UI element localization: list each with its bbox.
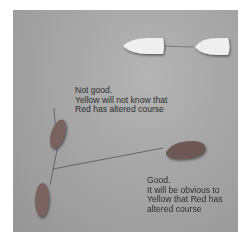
diagram-panel: Not good. Yellow will not know that Red … <box>13 10 238 232</box>
annotation-good: Good. It will be obvious to Yellow that … <box>147 176 223 214</box>
annotation-not-good: Not good. Yellow will not know that Red … <box>75 86 167 115</box>
boat-red-right <box>166 141 205 159</box>
boat-red-lower <box>34 183 49 217</box>
course-line-good <box>53 148 163 169</box>
connection-line-top <box>160 46 194 47</box>
annotation-line: altered course <box>147 205 223 215</box>
boat-white-right <box>195 38 230 55</box>
boat-red-upper <box>47 118 70 151</box>
annotation-line: Red has altered course <box>75 105 167 115</box>
boat-white-left <box>123 38 164 54</box>
course-line-red <box>50 150 57 185</box>
